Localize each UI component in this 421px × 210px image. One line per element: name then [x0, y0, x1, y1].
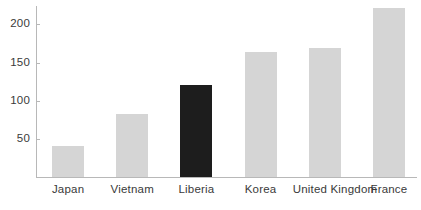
bar-vietnam[interactable] [116, 114, 148, 177]
bar-japan[interactable] [52, 146, 84, 177]
bar-korea[interactable] [245, 52, 277, 177]
bar-united-kingdom[interactable] [309, 48, 341, 177]
y-tick-label: 150 [0, 57, 30, 69]
y-tick-label: 200 [0, 18, 30, 30]
y-tick-label: 50 [0, 133, 30, 145]
category-label-france: France [357, 181, 421, 197]
y-tick-label: 100 [0, 95, 30, 107]
bars-layer [36, 0, 421, 177]
category-label-vietnam: Vietnam [100, 181, 164, 197]
category-label-united-kingdom: United Kingdom [293, 181, 357, 197]
bar-chart: 50100150200 JapanVietnamLiberiaKoreaUnit… [0, 0, 421, 210]
category-label-liberia: Liberia [164, 181, 228, 197]
x-axis-baseline [36, 177, 417, 178]
bar-france[interactable] [373, 8, 405, 177]
bar-liberia[interactable] [180, 85, 212, 177]
category-label-korea: Korea [229, 181, 293, 197]
x-axis-category-labels: JapanVietnamLiberiaKoreaUnited KingdomFr… [36, 181, 421, 201]
category-label-japan: Japan [36, 181, 100, 197]
